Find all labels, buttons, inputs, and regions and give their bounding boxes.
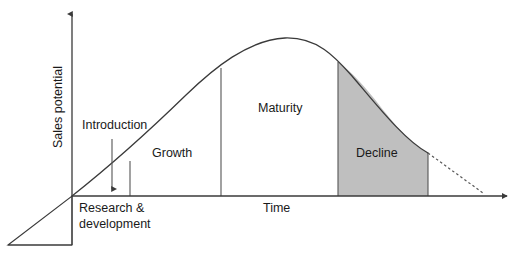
y-axis-label-sales-potential: Sales potential (51, 66, 65, 148)
label-maturity: Maturity (258, 101, 303, 115)
label-research-development-line1: Research & (79, 201, 145, 215)
label-research-development-line2: development (79, 217, 151, 231)
label-growth: Growth (152, 146, 192, 160)
label-introduction: Introduction (82, 118, 147, 132)
product-life-cycle-diagram: Introduction Growth Maturity Decline Res… (0, 0, 521, 257)
product-life-cycle-chart: Introduction Growth Maturity Decline Res… (0, 0, 521, 257)
projected-decline-dashed-line (428, 153, 483, 193)
research-development-triangle (8, 196, 72, 245)
decline-shaded-region (338, 62, 428, 196)
x-axis-label-time: Time (263, 201, 290, 215)
label-decline: Decline (356, 146, 398, 160)
